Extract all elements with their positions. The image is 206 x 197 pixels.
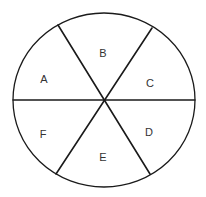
segment-label-e: E	[99, 152, 106, 163]
six-segment-circle-diagram	[0, 0, 206, 197]
segment-label-b: B	[99, 48, 106, 59]
segment-label-d: D	[145, 127, 153, 138]
segment-label-c: C	[146, 78, 154, 89]
segment-label-f: F	[40, 129, 47, 140]
segment-label-a: A	[40, 74, 47, 85]
